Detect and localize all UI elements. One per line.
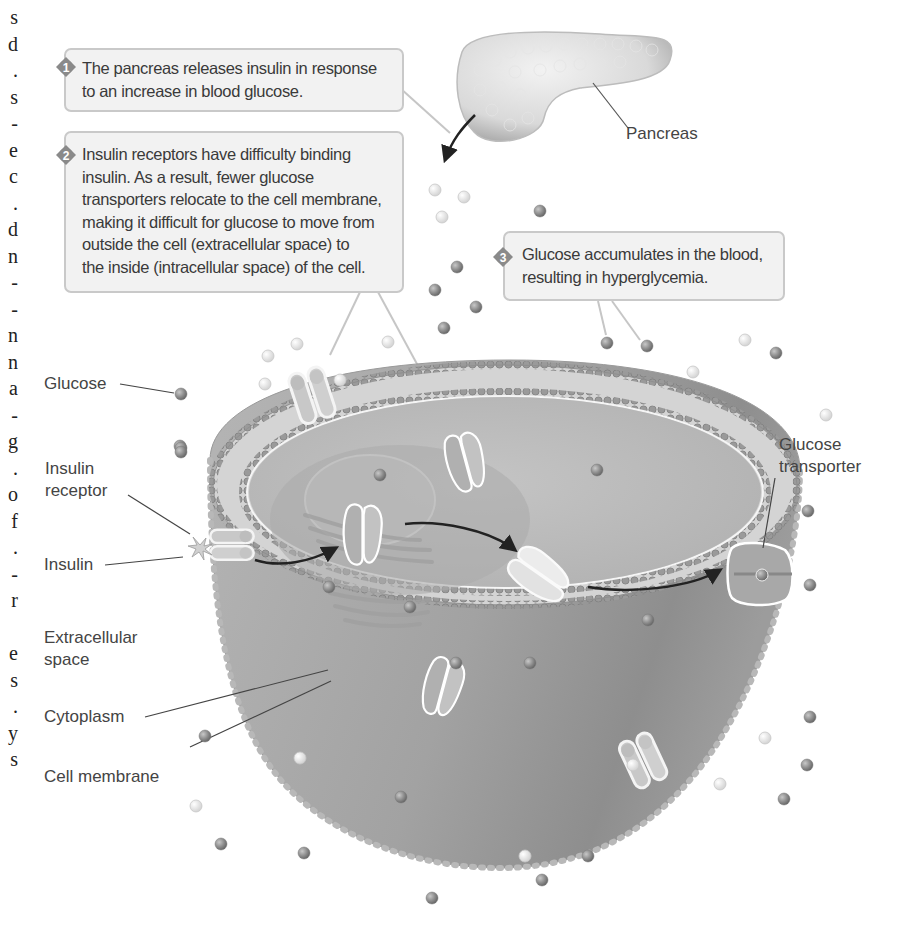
- svg-text:3: 3: [500, 251, 507, 265]
- label-glucose-transporter-line-1: Glucose: [779, 434, 861, 456]
- label-cell-membrane: Cell membrane: [44, 766, 159, 788]
- callout-2-line-2: insulin. As a result, fewer glucose: [82, 166, 382, 189]
- pancreas-leader-line: [593, 83, 628, 128]
- callout-2-line-6: the inside (intracellular space) of the …: [82, 256, 382, 279]
- callout-2-line-3: transporters relocate to the cell membra…: [82, 188, 382, 211]
- callout-step-1: The pancreas releases insulin in respons…: [64, 48, 404, 112]
- label-pancreas: Pancreas: [626, 123, 698, 145]
- callout-2-line-1: Insulin receptors have difficulty bindin…: [82, 143, 382, 166]
- callout-1-line-2: to an increase in blood glucose.: [82, 80, 377, 103]
- label-insulin-receptor-line-2: receptor: [45, 480, 107, 502]
- insulin-resistance-diagram: sd.s-ec.dn--nna-g.of.-res.ys: [0, 0, 919, 938]
- step-2-badge-icon: 2: [55, 144, 77, 166]
- label-glucose-transporter-line-2: transporter: [779, 456, 861, 478]
- label-glucose-transporter: Glucose transporter: [779, 434, 861, 478]
- label-insulin-receptor: Insulin receptor: [45, 458, 107, 502]
- step-1-badge-icon: 1: [55, 56, 77, 78]
- cell: [210, 360, 800, 868]
- label-extracellular-line-1: Extracellular: [44, 627, 138, 649]
- callout-3-line-1: Glucose accumulates in the blood,: [522, 243, 763, 266]
- label-glucose: Glucose: [44, 373, 106, 395]
- callout-step-3: Glucose accumulates in the blood, result…: [503, 231, 785, 301]
- svg-text:1: 1: [63, 61, 70, 75]
- label-extracellular-space: Extracellular space: [44, 627, 138, 671]
- step-3-badge-icon: 3: [492, 246, 514, 268]
- callout-1-line-1: The pancreas releases insulin in respons…: [82, 57, 377, 80]
- callout-3-line-2: resulting in hyperglycemia.: [522, 266, 763, 289]
- glucose-transporter-membrane: [728, 543, 793, 605]
- glucose-transporter-vesicle-1: [344, 505, 382, 565]
- label-insulin-receptor-line-1: Insulin: [45, 458, 107, 480]
- callout-2-line-5: outside the cell (extracellular space) t…: [82, 233, 382, 256]
- callout-2-line-4: making it difficult for glucose to move …: [82, 211, 382, 234]
- callout-step-2: Insulin receptors have difficulty bindin…: [64, 131, 404, 293]
- label-extracellular-line-2: space: [44, 649, 138, 671]
- label-insulin: Insulin: [44, 554, 93, 576]
- label-cytoplasm: Cytoplasm: [44, 706, 124, 728]
- insulin-molecule-icon: [188, 537, 212, 560]
- svg-text:2: 2: [63, 149, 70, 163]
